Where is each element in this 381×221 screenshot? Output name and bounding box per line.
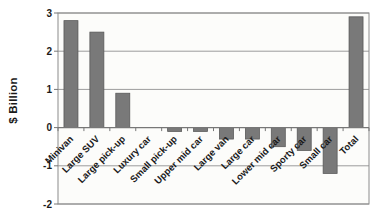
y-axis-title: $ Billion (7, 77, 19, 124)
y-axis-tick-labels: 3210-1-2 (43, 8, 52, 210)
y-axis-ticks (54, 13, 58, 204)
y-tick-label-2: 2 (46, 46, 52, 57)
y-tick-label-0: 0 (46, 122, 52, 133)
bar-total (349, 17, 363, 128)
y-tick-label-3: 3 (46, 8, 52, 19)
bar-large-pick-up (116, 93, 130, 127)
y-tick-label-1: 1 (46, 84, 52, 95)
bar-chart: 3210-1-2 MinivanLarge SUVLarge pick-upLu… (0, 0, 381, 221)
plot-area (58, 13, 369, 204)
bar-chart-figure: 3210-1-2 MinivanLarge SUVLarge pick-upLu… (0, 0, 381, 221)
bar-large-suv (90, 32, 104, 128)
y-tick-label--2: -2 (43, 199, 52, 210)
bar-minivan (64, 21, 78, 128)
